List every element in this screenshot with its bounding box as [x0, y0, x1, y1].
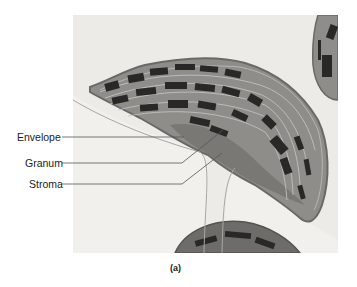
micrograph-area — [73, 15, 338, 253]
chloroplast-micrograph — [0, 0, 357, 287]
stroma-label: Stroma — [29, 178, 63, 190]
figure-caption: (a) — [170, 263, 181, 273]
envelope-label: Envelope — [17, 131, 61, 143]
granum-label: Granum — [25, 157, 63, 169]
